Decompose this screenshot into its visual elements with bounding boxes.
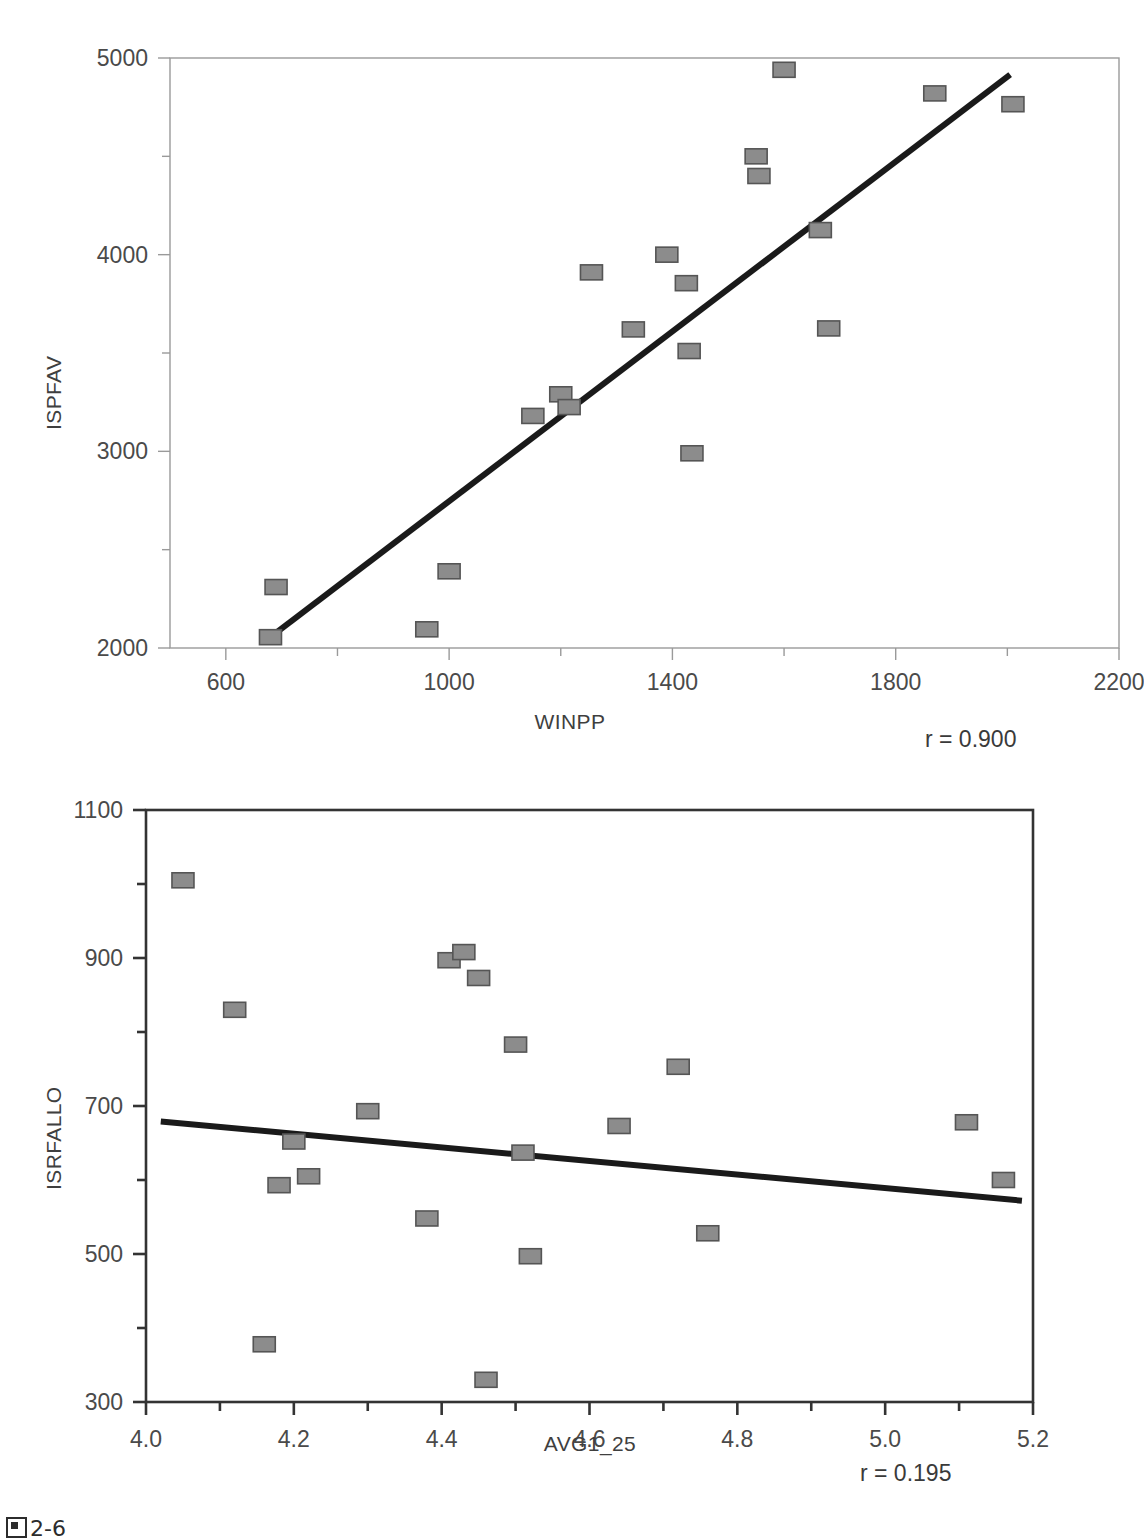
data-point-marker (468, 970, 490, 985)
y-axis-title: ISPFAV (42, 356, 66, 430)
y-axis-tick-label: 700 (85, 1093, 123, 1119)
data-point-marker (809, 223, 831, 238)
figure-caption: 2-6 (6, 1516, 66, 1539)
data-point-marker (678, 344, 700, 359)
y-axis-tick-label: 2000 (97, 635, 148, 661)
correlation-annotation: r = 0.195 (860, 1460, 951, 1487)
data-point-marker (955, 1115, 977, 1130)
plot-frame (146, 810, 1033, 1402)
x-axis-tick-label: 1400 (647, 669, 698, 695)
y-axis-tick-label: 4000 (97, 242, 148, 268)
data-point-marker (522, 408, 544, 423)
data-point-marker (416, 622, 438, 637)
data-point-marker (608, 1118, 630, 1133)
figure-caption-text: 2-6 (30, 1516, 66, 1539)
data-point-marker (558, 400, 580, 415)
data-point-marker (675, 276, 697, 291)
data-point-marker (519, 1249, 541, 1264)
y-axis-tick-label: 5000 (97, 45, 148, 71)
caption-marker-icon (6, 1517, 27, 1538)
data-point-marker (773, 62, 795, 77)
data-point-marker (667, 1059, 689, 1074)
data-point-marker (172, 873, 194, 888)
data-point-marker (357, 1104, 379, 1119)
data-point-marker (748, 169, 770, 184)
data-point-marker (224, 1002, 246, 1017)
x-axis-tick-label: 2200 (1093, 669, 1144, 695)
chart-panel-isrfallo-avg1-25: 4.04.24.44.64.85.05.23005007009001100 IS… (0, 770, 1144, 1470)
y-axis-tick-label: 500 (85, 1241, 123, 1267)
data-point-marker (259, 630, 281, 645)
data-point-marker (253, 1337, 275, 1352)
x-axis-tick-label: 4.0 (130, 1426, 162, 1452)
x-axis-tick-label: 4.4 (426, 1426, 458, 1452)
y-axis-title: ISRFALLO (42, 1086, 66, 1190)
data-point-marker (453, 945, 475, 960)
x-axis-tick-label: 5.0 (869, 1426, 901, 1452)
data-point-marker (622, 322, 644, 337)
data-point-marker (298, 1169, 320, 1184)
data-point-marker (580, 265, 602, 280)
data-point-marker (745, 149, 767, 164)
x-axis-tick-label: 1000 (424, 669, 475, 695)
x-axis-title: WINPP (535, 710, 606, 734)
data-point-marker (1002, 97, 1024, 112)
data-point-marker (283, 1134, 305, 1149)
data-point-marker (512, 1145, 534, 1160)
data-point-marker (818, 321, 840, 336)
data-point-marker (475, 1372, 497, 1387)
correlation-annotation: r = 0.900 (925, 726, 1016, 753)
chart-panel-ispfav-winpp: 60010001400180022002000300040005000 ISPF… (0, 0, 1144, 770)
scatter-plot-ispfav-winpp: 60010001400180022002000300040005000 (0, 0, 1144, 770)
x-axis-tick-label: 4.8 (721, 1426, 753, 1452)
y-axis-tick-label: 900 (85, 945, 123, 971)
data-point-marker (656, 247, 678, 262)
scatter-plot-isrfallo-avg1-25: 4.04.24.44.64.85.05.23005007009001100 (0, 770, 1144, 1470)
x-axis-tick-label: 600 (207, 669, 245, 695)
x-axis-tick-label: 5.2 (1017, 1426, 1049, 1452)
data-point-marker (268, 1178, 290, 1193)
data-point-marker (924, 86, 946, 101)
x-axis-tick-label: 1800 (870, 669, 921, 695)
data-point-marker (416, 1211, 438, 1226)
x-axis-tick-label: 4.2 (278, 1426, 310, 1452)
x-axis-title: AVG1_25 (544, 1432, 636, 1456)
data-point-marker (438, 564, 460, 579)
data-point-marker (505, 1037, 527, 1052)
data-point-marker (681, 446, 703, 461)
figure-page: 60010001400180022002000300040005000 ISPF… (0, 0, 1144, 1539)
y-axis-tick-label: 1100 (74, 797, 123, 823)
regression-line (268, 75, 1010, 639)
y-axis-tick-label: 300 (85, 1389, 123, 1415)
data-point-marker (697, 1226, 719, 1241)
data-point-marker (265, 580, 287, 595)
data-point-marker (992, 1173, 1014, 1188)
y-axis-tick-label: 3000 (97, 438, 148, 464)
